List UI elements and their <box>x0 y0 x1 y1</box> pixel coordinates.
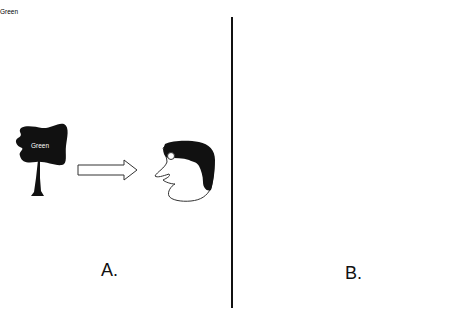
filled-tree-icon: Green <box>16 124 68 196</box>
arrow-right-icon <box>78 160 137 180</box>
panel-label-a: A. <box>101 261 118 279</box>
panel-a: Green <box>16 124 215 202</box>
panel-label-b: B. <box>345 264 362 282</box>
face-profile-icon <box>155 141 215 202</box>
tree-word-label: Green <box>31 142 49 149</box>
diagram-canvas: Green <box>0 0 468 321</box>
